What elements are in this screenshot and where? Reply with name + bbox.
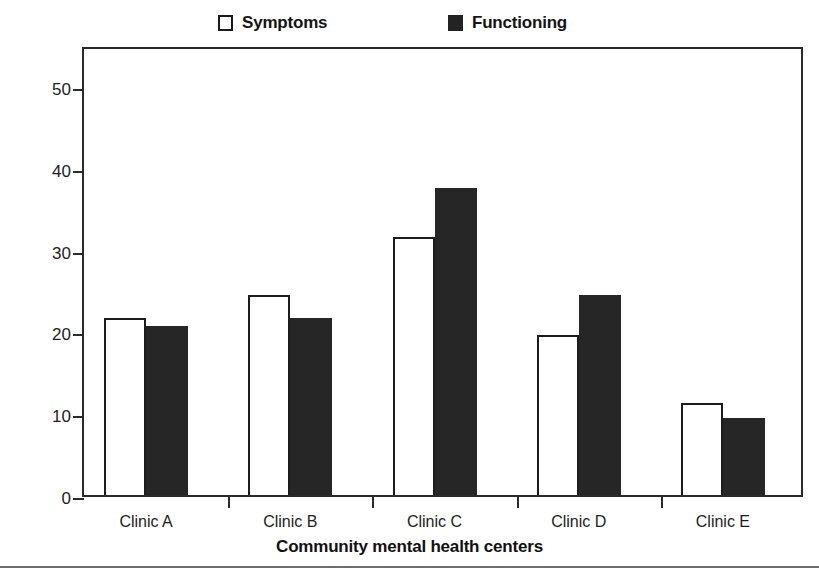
y-axis-tick-label: 0 — [62, 489, 71, 509]
x-axis-tick-mark — [517, 495, 519, 508]
y-axis-tick-mark — [73, 171, 84, 173]
bar-functioning-clinic-b — [290, 318, 332, 495]
y-axis-tick-label: 40 — [52, 162, 71, 182]
y-axis-tick-mark — [73, 253, 84, 255]
y-axis-tick-label: 30 — [52, 244, 71, 264]
x-axis-tick-mark — [661, 495, 663, 508]
x-axis-category-label: Clinic E — [696, 513, 750, 531]
y-axis-tick-mark — [73, 334, 84, 336]
x-axis-category-label: Clinic A — [119, 513, 172, 531]
y-axis-title: 6-Month change score — [2, 0, 32, 77]
chart-legend: Symptoms Functioning — [0, 10, 819, 36]
x-axis-tick-mark — [228, 495, 230, 508]
y-axis-tick-label: 10 — [52, 407, 71, 427]
y-axis-tick-label: 50 — [52, 80, 71, 100]
x-axis-tick-mark — [372, 495, 374, 508]
plot-area: 01020304050Clinic AClinic BClinic CClini… — [84, 49, 801, 495]
bar-symptoms-clinic-a — [104, 318, 146, 495]
y-axis-tick-mark — [73, 498, 84, 500]
x-axis-category-label: Clinic B — [263, 513, 317, 531]
bar-functioning-clinic-e — [723, 418, 765, 495]
bar-symptoms-clinic-d — [537, 335, 579, 495]
bar-symptoms-clinic-b — [248, 295, 290, 495]
legend-item-symptoms: Symptoms — [218, 10, 327, 36]
filled-square-icon — [448, 15, 463, 31]
bar-symptoms-clinic-e — [681, 403, 723, 495]
legend-label-functioning: Functioning — [472, 13, 567, 33]
y-axis-tick-label: 20 — [52, 325, 71, 345]
open-square-icon — [218, 15, 233, 31]
legend-label-symptoms: Symptoms — [242, 13, 327, 33]
legend-item-functioning: Functioning — [448, 10, 567, 36]
plot-frame: 01020304050Clinic AClinic BClinic CClini… — [82, 47, 803, 497]
x-axis-category-label: Clinic D — [551, 513, 606, 531]
bar-functioning-clinic-d — [579, 295, 621, 495]
bar-symptoms-clinic-c — [393, 237, 435, 495]
bar-functioning-clinic-a — [146, 326, 188, 495]
footer-divider — [0, 566, 819, 568]
y-axis-tick-mark — [73, 89, 84, 91]
y-axis-tick-mark — [73, 416, 84, 418]
x-axis-category-label: Clinic C — [407, 513, 462, 531]
x-axis-title: Community mental health centers — [0, 537, 819, 557]
bar-functioning-clinic-c — [435, 188, 477, 495]
